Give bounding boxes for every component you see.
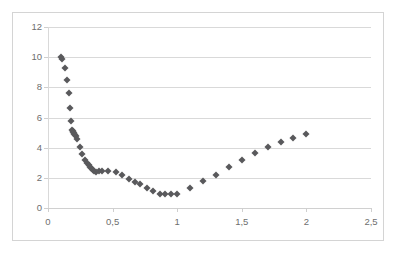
y-tick-12 (44, 27, 48, 28)
x-tick-0 (48, 208, 49, 212)
y-axis-label-10: 10 (31, 52, 42, 62)
y-tick-10 (44, 57, 48, 58)
x-axis-label-1,5: 1,5 (235, 217, 248, 227)
data-point (187, 184, 194, 191)
gridline-y-4 (48, 148, 371, 149)
y-tick-8 (44, 87, 48, 88)
x-axis-label-2,5: 2,5 (364, 217, 377, 227)
x-tick-1 (177, 208, 178, 212)
gridline-y-2 (48, 178, 371, 179)
data-point (264, 144, 271, 151)
y-tick-6 (44, 118, 48, 119)
data-point (65, 90, 72, 97)
y-axis-label-12: 12 (31, 22, 42, 32)
plot-area: 024681012 00,511,522,5 (48, 27, 371, 208)
x-axis-label-2: 2 (304, 217, 309, 227)
data-point (64, 76, 71, 83)
data-point (74, 136, 81, 143)
data-point (137, 180, 144, 187)
y-axis-label-8: 8 (37, 83, 42, 93)
data-point (238, 156, 245, 163)
y-tick-2 (44, 178, 48, 179)
data-point (105, 167, 112, 174)
x-axis-label-1: 1 (175, 217, 180, 227)
y-axis-label-4: 4 (37, 143, 42, 153)
x-axis-label-0: 0 (45, 217, 50, 227)
data-point (66, 105, 73, 112)
data-point (61, 64, 68, 71)
chart-frame: 024681012 00,511,522,5 (12, 12, 384, 241)
x-tick-2,5 (371, 208, 372, 212)
data-point (76, 143, 83, 150)
gridline-y-8 (48, 87, 371, 88)
data-point (251, 150, 258, 157)
gridline-y-10 (48, 57, 371, 58)
y-tick-4 (44, 148, 48, 149)
data-point (277, 138, 284, 145)
x-tick-1,5 (242, 208, 243, 212)
y-axis-label-2: 2 (37, 173, 42, 183)
data-point (290, 134, 297, 141)
data-point (225, 164, 232, 171)
x-tick-2 (306, 208, 307, 212)
data-point (303, 131, 310, 138)
gridline-y-6 (48, 118, 371, 119)
y-axis-label-6: 6 (37, 113, 42, 123)
x-tick-0,5 (113, 208, 114, 212)
gridline-y-0 (48, 208, 371, 209)
data-point (174, 190, 181, 197)
x-axis-label-0,5: 0,5 (106, 217, 119, 227)
y-axis-label-0: 0 (37, 203, 42, 213)
gridline-y-12 (48, 27, 371, 28)
